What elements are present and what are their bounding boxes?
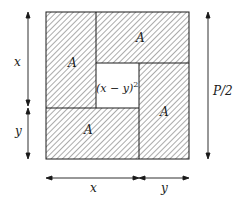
dim-label-bottom-left: x: [90, 181, 97, 195]
dim-label-bottom-right: y: [160, 181, 168, 195]
label-top-right: A: [135, 31, 145, 45]
label-center: (x − y)2: [96, 80, 138, 95]
label-bottom-right: A: [159, 105, 169, 119]
dim-label-left-top: x: [14, 55, 21, 69]
dim-label-right: P/2: [212, 84, 233, 98]
label-top-left: A: [67, 56, 77, 70]
square-diagram: A A A A (x − y)2 x y P/2 x y: [0, 0, 242, 202]
dim-label-left-bottom: y: [14, 124, 22, 138]
label-bottom-left: A: [83, 123, 93, 137]
